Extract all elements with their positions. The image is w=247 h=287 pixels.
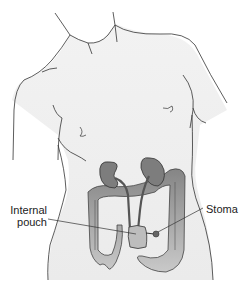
internal-pouch-label-line1: Internal [5,204,47,216]
internal-pouch-label: Internal pouch [5,204,47,228]
anatomical-torso-diagram [0,0,247,287]
stoma-label: Stoma [206,203,238,215]
internal-pouch-label-line2: pouch [5,216,47,228]
